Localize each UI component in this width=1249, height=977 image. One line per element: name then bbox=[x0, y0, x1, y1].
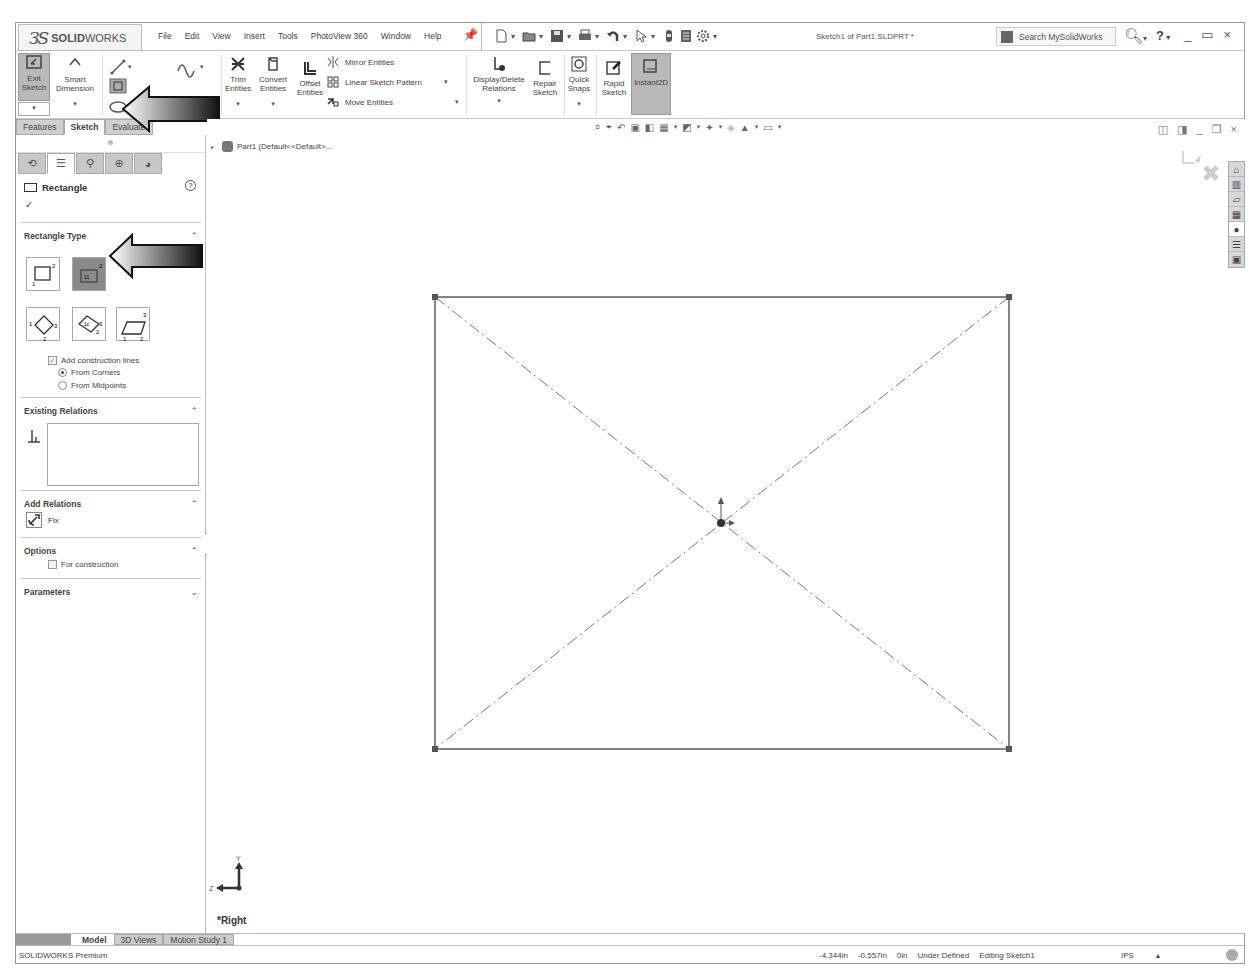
exit-sketch-dropdown[interactable]: ▾ bbox=[18, 102, 50, 116]
parallelogram-icon: 312 bbox=[117, 308, 151, 342]
svg-text:1: 1 bbox=[29, 321, 33, 327]
splitter-handle[interactable] bbox=[108, 140, 113, 145]
radio[interactable] bbox=[58, 381, 67, 390]
existing-relations-list[interactable] bbox=[47, 423, 199, 486]
svg-text:2: 2 bbox=[52, 263, 56, 269]
center-rectangle-button[interactable]: 112 bbox=[72, 257, 106, 291]
options-gear-icon[interactable] bbox=[696, 29, 710, 43]
manager-tabs: ⟲ ☰ ⚲ ⊕ ◕ bbox=[16, 152, 206, 174]
help-button[interactable]: ? ▾ bbox=[1156, 28, 1170, 43]
file-properties-icon[interactable] bbox=[679, 29, 693, 43]
tab-sketch[interactable]: Sketch bbox=[64, 119, 106, 135]
save-icon[interactable] bbox=[550, 29, 564, 43]
smart-dimension-button[interactable]: Smart Dimension ▾ bbox=[53, 55, 97, 108]
from-midpoints-radio[interactable]: From Midpoints bbox=[58, 381, 126, 390]
tab-model[interactable]: Model bbox=[75, 934, 114, 945]
print-icon[interactable] bbox=[578, 29, 592, 43]
offset-entities-icon bbox=[301, 59, 319, 77]
svg-text:3: 3 bbox=[143, 312, 147, 318]
unit-system-dropdown[interactable]: ▴ bbox=[1156, 951, 1160, 960]
section-header[interactable]: Options⌃ bbox=[21, 538, 201, 556]
annotation-arrow-ribbon bbox=[121, 85, 221, 133]
section-header[interactable]: Add Relations⌃ bbox=[21, 491, 201, 509]
repair-sketch-icon bbox=[536, 59, 554, 77]
offset-entities-button[interactable]: Offset Entities bbox=[295, 59, 325, 97]
search-mysolidworks[interactable]: Search MySolidWorks bbox=[996, 27, 1116, 46]
menu-tools[interactable]: Tools bbox=[278, 31, 298, 41]
svg-text:3: 3 bbox=[99, 321, 103, 327]
search-icon[interactable]: 🔍︎▾ bbox=[1124, 27, 1147, 45]
tab-motion-study[interactable]: Motion Study 1 bbox=[163, 934, 234, 945]
section-header[interactable]: Parameters⌄ bbox=[21, 579, 201, 597]
3pt-corner-rectangle-button[interactable]: 132 bbox=[26, 307, 60, 341]
quick-snaps-button[interactable]: Quick Snaps ▾ bbox=[566, 55, 592, 108]
corner-rectangle-button[interactable]: 21 bbox=[26, 257, 60, 291]
y-coordinate: -0.557in bbox=[858, 951, 887, 960]
instant2d-button[interactable]: Instant2D bbox=[631, 53, 671, 115]
help-icon[interactable]: ? bbox=[185, 180, 196, 191]
tab-features[interactable]: Features bbox=[16, 119, 64, 135]
section-header[interactable]: Existing Relations⌃ bbox=[21, 398, 201, 416]
menu-view[interactable]: View bbox=[212, 31, 230, 41]
annotation-arrow-rectangle-type bbox=[108, 233, 204, 279]
tab-property-manager[interactable]: ☰ bbox=[47, 153, 75, 174]
new-document-icon[interactable] bbox=[494, 29, 508, 43]
linear-sketch-pattern-button[interactable]: Linear Sketch Pattern ▾ bbox=[327, 76, 447, 88]
3pt-center-rectangle-button[interactable]: 1c32 bbox=[72, 307, 106, 341]
convert-entities-icon bbox=[264, 55, 282, 73]
open-folder-icon[interactable] bbox=[522, 29, 536, 43]
add-construction-lines-checkbox[interactable]: ✓ Add construction lines bbox=[48, 356, 139, 365]
menu-photoview[interactable]: PhotoView 360 bbox=[311, 31, 368, 41]
mirror-entities-button[interactable]: Mirror Entities bbox=[327, 56, 394, 68]
convert-entities-button[interactable]: Convert Entities ▾ bbox=[255, 55, 291, 108]
quick-tips-icon[interactable] bbox=[1226, 949, 1238, 961]
display-delete-relations-button[interactable]: Display/Delete Relations ▾ bbox=[470, 55, 528, 105]
rapid-sketch-button[interactable]: Rapid Sketch bbox=[600, 59, 628, 97]
fix-relation-button[interactable] bbox=[26, 512, 42, 528]
minimize-button[interactable]: _ bbox=[1184, 27, 1191, 42]
tab-feature-manager[interactable]: ⟲ bbox=[18, 153, 46, 174]
exit-sketch-button[interactable]: Exit Sketch bbox=[18, 53, 50, 101]
menu-file[interactable]: File bbox=[158, 31, 172, 41]
sketch-definition-status[interactable]: Under Defined bbox=[918, 951, 970, 960]
svg-text:2: 2 bbox=[140, 336, 144, 342]
move-entities-button[interactable]: Move Entities ▾ bbox=[327, 96, 459, 108]
from-corners-radio[interactable]: From Corners bbox=[58, 368, 120, 377]
divider bbox=[596, 55, 597, 115]
select-pointer-icon[interactable] bbox=[634, 29, 648, 43]
expand-icon: ⌄ bbox=[190, 587, 198, 597]
solidworks-logo[interactable]: ЗS SOLIDWORKS bbox=[18, 24, 142, 51]
menu-window[interactable]: Window bbox=[381, 31, 411, 41]
checkbox[interactable] bbox=[48, 560, 57, 569]
trim-entities-button[interactable]: Trim Entities ▾ bbox=[223, 55, 253, 108]
restore-button[interactable]: ▭ bbox=[1201, 27, 1213, 42]
menu-edit[interactable]: Edit bbox=[185, 31, 200, 41]
ds-logo-icon: ЗS bbox=[29, 28, 47, 48]
quick-access-toolbar: ▾ ▾ ▾ ▾ ▾ ▾ ▾ bbox=[494, 29, 724, 43]
graphics-area[interactable]: ▸ Part1 (Default<<Default>... ⌕ ⌖ ↶ ▣ ◧ … bbox=[207, 119, 1245, 933]
menu-help[interactable]: Help bbox=[424, 31, 441, 41]
undo-icon[interactable] bbox=[606, 29, 620, 43]
pin-icon[interactable]: 📌 bbox=[463, 28, 478, 42]
instant2d-icon bbox=[642, 58, 660, 76]
unit-system[interactable]: IPS bbox=[1121, 951, 1134, 960]
for-construction-checkbox[interactable]: For construction bbox=[48, 560, 118, 569]
close-button[interactable]: × bbox=[1224, 27, 1232, 42]
tab-configuration-manager[interactable]: ⚲ bbox=[76, 153, 104, 174]
ok-check-button[interactable]: ✓ bbox=[25, 199, 33, 210]
parallelogram-button[interactable]: 312 bbox=[116, 307, 150, 341]
checkbox[interactable]: ✓ bbox=[48, 356, 57, 365]
collapse-icon: ⌃ bbox=[190, 499, 198, 509]
repair-sketch-button[interactable]: Repair Sketch bbox=[530, 59, 560, 97]
menu-insert[interactable]: Insert bbox=[244, 31, 265, 41]
radio[interactable] bbox=[58, 368, 67, 377]
rebuild-icon[interactable] bbox=[662, 29, 676, 43]
sketch-canvas[interactable]: Y Z bbox=[207, 119, 1245, 933]
mirror-entities-icon bbox=[327, 56, 339, 68]
solidworks-window: ЗS SOLIDWORKS File Edit View Insert Tool… bbox=[15, 22, 1245, 964]
move-entities-icon bbox=[327, 96, 339, 108]
tab-dimxpert-manager[interactable]: ⊕ bbox=[105, 153, 133, 174]
tab-scroll-arrows[interactable] bbox=[16, 934, 71, 945]
tab-3d-views[interactable]: 3D Views bbox=[114, 934, 164, 945]
tab-display-manager[interactable]: ◕ bbox=[134, 153, 162, 174]
